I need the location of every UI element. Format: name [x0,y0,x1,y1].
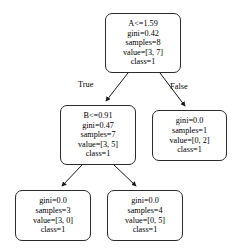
node-gini: gini=0.0 [176,116,204,126]
node-class: class=1 [133,225,158,235]
edge-label-true: True [78,80,94,89]
node-samples: samples=8 [125,38,160,48]
node-value: value=[0, 5] [125,216,165,226]
node-class: class=1 [177,145,202,155]
node-gini: gini=0.0 [39,196,67,206]
edge-root-to-left [106,73,128,101]
node-gini: gini=0.42 [127,29,159,39]
tree-node-left[interactable]: B<=0.91 gini=0.47 samples=7 value=[3, 5]… [60,105,136,165]
decision-tree-diagram: A<=1.59 gini=0.42 samples=8 value=[3, 7]… [0,0,238,252]
node-value: value=[3, 5] [78,140,118,150]
node-class: class=1 [86,149,111,159]
tree-node-bottom-right-leaf[interactable]: gini=0.0 samples=4 value=[0, 5] class=1 [107,190,183,241]
edge-label-false: False [170,82,188,91]
node-samples: samples=4 [127,206,162,216]
edge-left-to-leaf-ll [62,165,82,186]
tree-node-root[interactable]: A<=1.59 gini=0.42 samples=8 value=[3, 7]… [105,13,181,73]
tree-node-bottom-left-leaf[interactable]: gini=0.0 samples=3 value=[3, 0] class=1 [15,190,91,241]
node-class: class=1 [41,225,66,235]
node-gini: gini=0.47 [82,121,114,131]
node-gini: gini=0.0 [131,196,159,206]
node-samples: samples=1 [172,126,207,136]
node-condition: A<=1.59 [128,19,157,29]
node-samples: samples=3 [35,206,70,216]
edge-left-to-leaf-lr [114,165,136,186]
node-value: value=[3, 0] [33,216,73,226]
node-value: value=[3, 7] [123,48,163,58]
tree-node-right-leaf[interactable]: gini=0.0 samples=1 value=[0, 2] class=1 [152,110,227,161]
node-samples: samples=7 [80,130,115,140]
node-value: value=[0, 2] [169,136,209,146]
node-class: class=1 [131,57,156,67]
node-condition: B<=0.91 [83,111,112,121]
